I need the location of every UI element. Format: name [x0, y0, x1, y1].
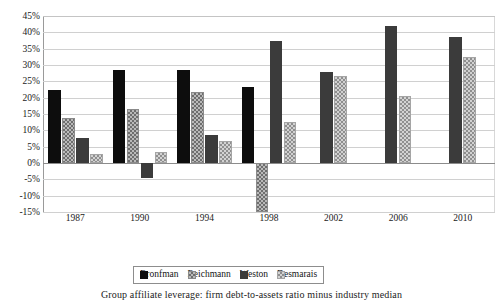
y-tick-label: 0%	[0, 158, 40, 168]
bar-desmarais-2006	[399, 96, 412, 163]
legend-item-desmarais: Desmarais	[277, 269, 317, 280]
legend-item-bronfman: Bronfman	[140, 269, 179, 280]
bar-reichmann-1987	[62, 118, 75, 163]
y-tick-label: 25%	[0, 76, 40, 86]
bar-desmarais-1998	[284, 122, 297, 163]
chart-plot-area	[43, 16, 495, 212]
y-tick-label: -15%	[0, 207, 40, 217]
x-tick-label-2002: 2002	[301, 212, 366, 225]
figure-caption: Group affiliate leverage: firm debt-to-a…	[0, 288, 503, 301]
bar-weston-1990	[141, 163, 154, 178]
bar-desmarais-1987	[90, 154, 103, 163]
gridline-0%	[43, 163, 495, 164]
y-tick-label: 45%	[0, 11, 40, 21]
gridline--5%	[43, 179, 495, 180]
bar-weston-1998	[270, 41, 283, 163]
y-tick-label: 35%	[0, 44, 40, 54]
y-tick-label: 20%	[0, 93, 40, 103]
x-tick-label-1990: 1990	[108, 212, 173, 225]
legend-item-weston: Weston	[240, 269, 268, 280]
chart-legend: BronfmanReichmannWestonDesmarais	[133, 266, 324, 284]
y-tick-label: 40%	[0, 27, 40, 37]
legend-swatch-weston-icon	[240, 271, 248, 279]
bar-weston-1994	[205, 135, 218, 163]
x-tick-label-2006: 2006	[366, 212, 431, 225]
x-tick-label-1987: 1987	[43, 212, 108, 225]
x-tick-label-1998: 1998	[237, 212, 302, 225]
y-axis: 45%40%35%30%25%20%15%10%5%0%-5%-10%-15%	[0, 16, 40, 212]
gridline--10%	[43, 196, 495, 197]
x-tick-label-1994: 1994	[172, 212, 237, 225]
x-axis: 1987199019941998200220062010	[43, 212, 495, 228]
bar-desmarais-1994	[219, 141, 232, 163]
gridline-45%	[43, 16, 495, 17]
bar-reichmann-1994	[191, 92, 204, 163]
y-tick-label: 10%	[0, 125, 40, 135]
legend-swatch-desmarais-icon	[277, 271, 285, 279]
gridline-40%	[43, 32, 495, 33]
bar-bronfman-1994	[177, 70, 190, 163]
y-tick-label: 5%	[0, 142, 40, 152]
bar-reichmann-1998	[256, 163, 269, 212]
bar-weston-2010	[449, 37, 462, 163]
bar-bronfman-1987	[48, 90, 61, 163]
bar-desmarais-2002	[334, 76, 347, 163]
y-tick-label: -10%	[0, 191, 40, 201]
bar-weston-2006	[385, 26, 398, 163]
bar-desmarais-1990	[155, 152, 168, 163]
legend-swatch-reichmann-icon	[188, 271, 196, 279]
bar-weston-2002	[320, 72, 333, 163]
bar-bronfman-1990	[113, 70, 126, 163]
bar-desmarais-2010	[463, 57, 476, 163]
bar-weston-1987	[76, 138, 89, 163]
figure: 45%40%35%30%25%20%15%10%5%0%-5%-10%-15% …	[0, 0, 503, 303]
y-tick-label: 15%	[0, 109, 40, 119]
legend-item-reichmann: Reichmann	[188, 269, 231, 280]
bar-reichmann-1990	[127, 109, 140, 163]
x-tick-label-2010: 2010	[430, 212, 495, 225]
legend-swatch-bronfman-icon	[140, 271, 148, 279]
bar-bronfman-1998	[242, 87, 255, 163]
y-tick-label: 30%	[0, 60, 40, 70]
y-tick-label: -5%	[0, 174, 40, 184]
